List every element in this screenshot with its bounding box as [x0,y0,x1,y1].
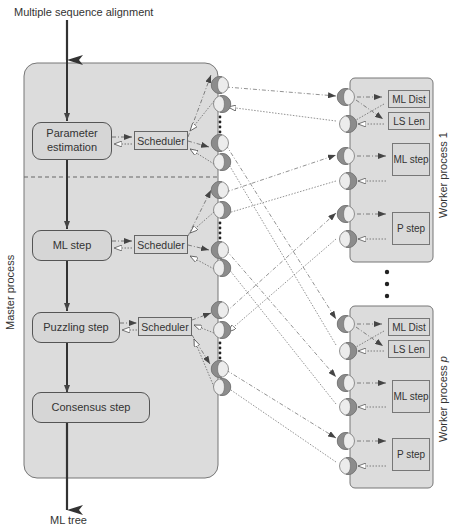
worker-1-task-ml-step: ML step [392,143,430,176]
distributed-process-diagram [0,0,455,531]
worker-p-label-prefix: Worker process [437,362,449,442]
worker-1-task-p-step: P step [392,212,430,245]
worker-p-task-ml-dist: ML Dist [388,318,430,336]
input-label: Multiple sequence alignment [14,6,153,18]
scheduler-ml: Scheduler [134,235,188,254]
inter-process-links [226,87,336,462]
scheduler-parameter: Scheduler [134,131,188,150]
worker-p-task-ml-step: ML step [392,380,430,413]
worker-p-task-ls-len: LS Len [388,340,430,358]
step-consensus-step: Consensus step [32,392,150,423]
worker-1-task-ml-dist: ML Dist [388,90,430,108]
step-label: Puzzling step [43,321,108,335]
step-label-line2: estimation [47,141,97,155]
step-label-line1: Parameter [46,127,97,141]
worker-1-label: Worker process 1 [437,132,449,218]
step-label: Consensus step [52,401,131,415]
step-ml-step: ML step [32,230,112,261]
scheduler-puzzling: Scheduler [138,317,192,336]
master-process-label: Master process [4,255,16,330]
worker-p-task-p-step: P step [392,438,430,471]
output-label: ML tree [50,514,87,526]
worker-ellipsis [385,270,389,298]
step-puzzling-step: Puzzling step [32,312,120,343]
step-parameter-estimation: Parameter estimation [32,122,112,160]
worker-1-task-ls-len: LS Len [388,112,430,130]
worker-p-label-var: p [437,356,449,362]
step-label: ML step [53,239,92,253]
worker-p-label: Worker process p [437,356,449,442]
